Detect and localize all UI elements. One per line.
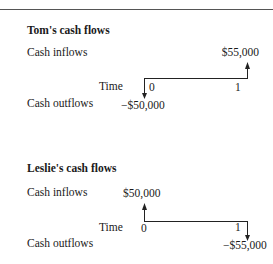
down-arrow-icon [142, 93, 147, 99]
tom-timeline [144, 68, 248, 94]
cash-flow-lines [0, 0, 273, 264]
down-arrow-icon [245, 235, 250, 241]
leslie-timeline [144, 209, 248, 236]
up-arrow-icon [142, 203, 147, 210]
up-arrow-icon [245, 62, 250, 69]
